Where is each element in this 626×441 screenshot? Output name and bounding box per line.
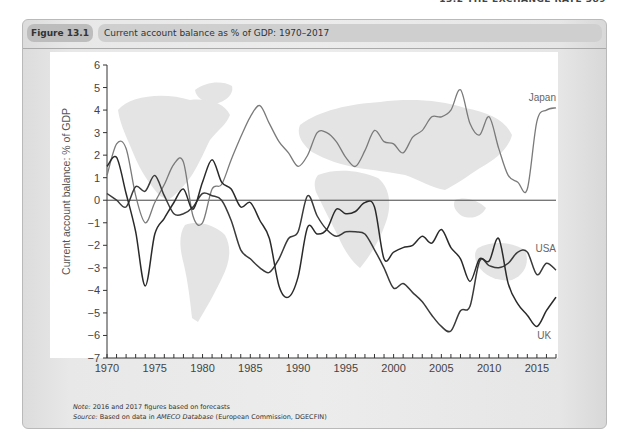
x-tick-label: 2010 [477,362,501,374]
chart: 6543210−1−2−3−4−5−6−71970197519801985199… [0,0,626,441]
x-tick-label: 2015 [525,362,549,374]
y-tick-label: −5 [87,307,100,319]
x-tick-label: 2005 [429,362,453,374]
y-tick-label: 2 [94,149,100,161]
y-tick-label: 4 [94,104,100,116]
y-tick-label: −2 [87,239,100,251]
y-tick-label: −3 [87,262,100,274]
x-tick-label: 1990 [286,362,310,374]
y-tick-label: −4 [87,284,100,296]
x-tick-label: 1970 [95,362,119,374]
series-label-usa: USA [535,243,556,254]
y-tick-label: −6 [87,329,100,341]
y-axis-title: Current account balance: % of GDP [60,108,72,275]
series-label-uk: UK [537,330,551,341]
y-tick-label: 1 [94,172,100,184]
x-tick-label: 1975 [143,362,167,374]
y-tick-label: −1 [87,217,100,229]
x-tick-label: 1985 [238,362,262,374]
x-tick-label: 2000 [381,362,405,374]
x-tick-label: 1995 [334,362,358,374]
x-tick-label: 1980 [190,362,214,374]
y-tick-label: 6 [94,59,100,71]
y-tick-label: 5 [94,82,100,94]
y-tick-label: 3 [94,127,100,139]
y-tick-label: 0 [94,194,100,206]
series-label-japan: Japan [529,92,556,103]
